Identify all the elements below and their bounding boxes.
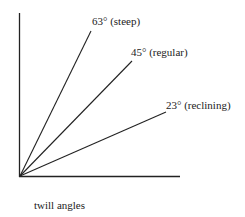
reclining-line [20,112,166,176]
regular-line [20,61,132,176]
reclining-label: 23° (reclining) [166,100,231,111]
regular-label: 45° (regular) [131,47,188,58]
caption: twill angles [34,200,85,211]
steep-label: 63° (steep) [92,16,140,27]
steep-line [20,31,91,176]
